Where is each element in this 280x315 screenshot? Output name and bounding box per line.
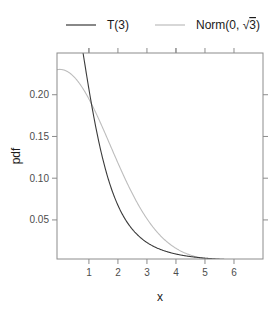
x-tick-label: 1 [86, 267, 92, 278]
y-tick-label: 0.15 [30, 131, 50, 142]
series-t3-line [57, 33, 263, 261]
x-tick-label: 4 [173, 267, 179, 278]
x-axis-title: x [157, 290, 163, 304]
plot-area [57, 33, 263, 262]
series-norm-line [57, 69, 263, 261]
x-axis: 123456 [86, 48, 237, 278]
x-tick-label: 6 [231, 267, 237, 278]
y-tick-label: 0.05 [30, 214, 50, 225]
chart: T(3) Norm(0, √3) 123456 0.050.100.150.20… [0, 0, 280, 315]
y-axis-title: pdf [9, 147, 23, 164]
x-tick-label: 3 [144, 267, 150, 278]
y-axis: 0.050.100.150.20 [30, 89, 268, 225]
legend-label-t3: T(3) [107, 18, 129, 32]
x-tick-label: 5 [202, 267, 208, 278]
legend: T(3) Norm(0, √3) [66, 18, 260, 32]
legend-label-norm: Norm(0, √3) [196, 18, 260, 32]
y-tick-label: 0.10 [30, 173, 50, 184]
y-tick-label: 0.20 [30, 89, 50, 100]
x-tick-label: 2 [115, 267, 121, 278]
